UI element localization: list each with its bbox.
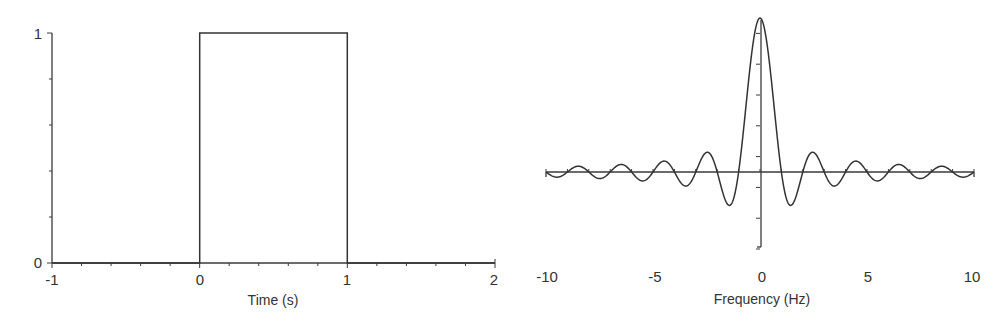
x-tick-label-0: 0 <box>196 271 204 288</box>
freq-tick-label-neg10: -10 <box>536 268 558 285</box>
y-tick-label-0: 0 <box>34 254 42 271</box>
x-tick-label-1: 1 <box>343 271 351 288</box>
sinc-spectrum-line <box>546 18 974 205</box>
freq-tick-label-0: 0 <box>758 268 766 285</box>
freq-tick-label-5: 5 <box>864 268 872 285</box>
x-axis-title-frequency: Frequency (Hz) <box>714 291 810 307</box>
x-axis-title-time: Time (s) <box>248 292 299 308</box>
freq-tick-label-10: 10 <box>964 268 981 285</box>
freq-tick-label-neg5: -5 <box>648 268 661 285</box>
y-tick-label-1: 1 <box>34 25 42 42</box>
frequency-domain-chart: -10 -5 0 5 10 Frequency (Hz) <box>536 18 980 307</box>
right-axis-ticks <box>546 33 974 249</box>
x-tick-label-neg1: -1 <box>45 271 58 288</box>
rect-pulse-line <box>52 33 495 263</box>
time-domain-chart: 1 0 -1 0 1 2 Time (s) <box>34 25 499 308</box>
left-axis-ticks <box>47 33 495 268</box>
x-tick-label-2: 2 <box>490 271 498 288</box>
figure: 1 0 -1 0 1 2 Time (s) -10 -5 0 5 10 Freq… <box>0 0 1008 324</box>
